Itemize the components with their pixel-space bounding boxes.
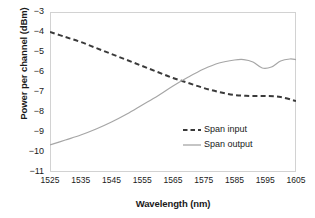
x-axis-title: Wavelength (nm) — [50, 198, 296, 209]
y-tick-label: −4 — [14, 27, 44, 36]
chart-figure: Power per channel (dBm) −3−4−5−6−7−8−9−1… — [0, 0, 315, 218]
x-tick-label: 1605 — [279, 176, 313, 185]
x-tick-label: 1565 — [156, 176, 190, 185]
x-tick-label: 1585 — [218, 176, 252, 185]
chart-legend: Span input Span output — [182, 122, 253, 152]
y-tick-label: −10 — [14, 147, 44, 156]
legend-label-span-input: Span input — [204, 122, 247, 137]
y-tick-label: −9 — [14, 127, 44, 136]
x-tick-label: 1575 — [187, 176, 221, 185]
x-tick-label: 1545 — [95, 176, 129, 185]
x-tick-label: 1555 — [125, 176, 159, 185]
plot-series-layer — [50, 12, 296, 172]
legend-label-span-output: Span output — [204, 137, 253, 152]
y-tick-label: −3 — [14, 7, 44, 16]
y-tick-label: −6 — [14, 67, 44, 76]
y-tick-label: −11 — [14, 167, 44, 176]
y-tick-label: −7 — [14, 87, 44, 96]
legend-item-span-output[interactable]: Span output — [182, 137, 253, 152]
dashed-line-swatch-icon — [182, 125, 202, 135]
solid-line-swatch-icon — [182, 140, 202, 150]
x-tick-label: 1595 — [248, 176, 282, 185]
legend-item-span-input[interactable]: Span input — [182, 122, 253, 137]
x-tick-label: 1525 — [33, 176, 67, 185]
y-tick-label: −8 — [14, 107, 44, 116]
x-tick-label: 1535 — [64, 176, 98, 185]
series-line-span-output — [50, 59, 296, 145]
y-tick-label: −5 — [14, 47, 44, 56]
